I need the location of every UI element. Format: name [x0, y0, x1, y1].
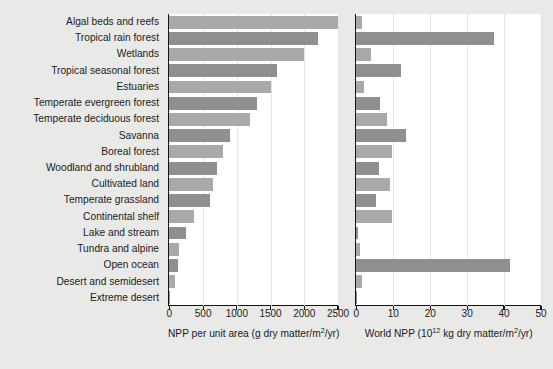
- bar: [169, 113, 250, 126]
- x-axis-tick-label: 2000: [293, 308, 315, 319]
- category-label: Open ocean: [103, 257, 159, 273]
- category-label: Tropical rain forest: [75, 30, 159, 46]
- npp-chart-figure: Algal beds and reefsTropical rain forest…: [0, 0, 553, 369]
- x-axis-title: World NPP (1012 kg dry matter/m2/yr): [365, 326, 533, 339]
- chart-panel-world-npp: [355, 14, 541, 306]
- bar: [356, 64, 400, 77]
- category-label: Algal beds and reefs: [66, 14, 159, 30]
- category-label: Cultivated land: [92, 176, 159, 192]
- bar: [169, 81, 270, 94]
- bar: [169, 194, 209, 207]
- x-axis-title: NPP per unit area (g dry matter/m2/yr): [168, 326, 339, 339]
- bar: [169, 275, 175, 288]
- category-label: Estuaries: [117, 79, 159, 95]
- bar: [356, 16, 362, 29]
- bar: [356, 145, 391, 158]
- x-axis-tick-label: 10: [388, 308, 399, 319]
- category-label: Extreme desert: [90, 290, 159, 306]
- bar: [169, 178, 213, 191]
- category-label: Continental shelf: [83, 209, 159, 225]
- category-label: Desert and semidesert: [57, 274, 160, 290]
- category-label: Savanna: [119, 128, 159, 144]
- bar: [356, 194, 376, 207]
- x-axis-tick-label: 20: [425, 308, 436, 319]
- bar: [169, 145, 223, 158]
- bar: [356, 259, 509, 272]
- bar: [169, 227, 186, 240]
- x-axis-tick-label: 1000: [226, 308, 248, 319]
- gridline: [304, 14, 305, 306]
- bar: [356, 32, 494, 45]
- category-label: Temperate grassland: [64, 192, 159, 208]
- bar: [169, 32, 317, 45]
- chart-panel-npp-per-unit-area: [168, 14, 338, 306]
- bar: [356, 227, 358, 240]
- bar: [169, 259, 177, 272]
- category-label: Woodland and shrubland: [46, 160, 159, 176]
- bar: [169, 162, 216, 175]
- x-axis-line-left: [168, 305, 338, 306]
- x-axis-line-right: [355, 305, 541, 306]
- bar: [356, 81, 364, 94]
- bar: [169, 64, 277, 77]
- x-axis-tick-label: 50: [535, 308, 546, 319]
- bar: [356, 243, 360, 256]
- bar: [356, 48, 371, 61]
- bar: [169, 129, 230, 142]
- bar: [169, 97, 257, 110]
- bar: [356, 162, 378, 175]
- x-axis-tick-label: 0: [167, 308, 173, 319]
- bar: [356, 113, 387, 126]
- bar: [169, 210, 193, 223]
- x-axis-tick-label: 30: [462, 308, 473, 319]
- x-axis-tick-label: 0: [354, 308, 360, 319]
- category-label: Boreal forest: [101, 144, 159, 160]
- x-axis-tick-label: 500: [195, 308, 212, 319]
- bar: [356, 210, 391, 223]
- bar: [356, 129, 406, 142]
- category-label: Tropical seasonal forest: [51, 63, 159, 79]
- category-label: Temperate evergreen forest: [34, 95, 159, 111]
- bar: [169, 16, 338, 29]
- x-axis-tick-label: 2500: [327, 308, 349, 319]
- category-label-column: Algal beds and reefsTropical rain forest…: [0, 14, 163, 306]
- x-axis-tick-label: 1500: [259, 308, 281, 319]
- bar: [356, 275, 362, 288]
- gridline: [338, 14, 339, 306]
- bar: [169, 243, 178, 256]
- category-label: Wetlands: [117, 46, 159, 62]
- category-label: Lake and stream: [83, 225, 159, 241]
- category-label: Tundra and alpine: [77, 241, 159, 257]
- gridline: [541, 14, 542, 306]
- bar: [356, 178, 390, 191]
- x-axis-tick-label: 40: [499, 308, 510, 319]
- category-label: Temperate deciduous forest: [33, 111, 159, 127]
- bar: [169, 48, 304, 61]
- bar: [356, 97, 380, 110]
